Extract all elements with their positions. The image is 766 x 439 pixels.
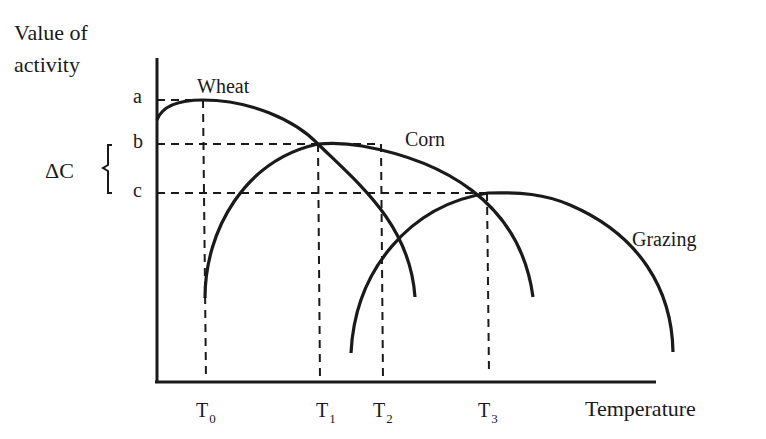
activity-temperature-diagram	[0, 0, 766, 439]
y-tick-a: a	[133, 86, 142, 106]
x-tick-t3: T3	[478, 400, 498, 420]
x-axis-title: Temperature	[585, 398, 696, 420]
delta-c-label: ΔC	[45, 160, 74, 182]
x-tick-t0: T0	[196, 400, 216, 420]
guide-t0	[203, 100, 206, 380]
corn-curve	[205, 143, 533, 298]
corn-label: Corn	[405, 129, 445, 149]
wheat-label: Wheat	[197, 76, 249, 96]
x-tick-t2: T2	[373, 400, 393, 420]
guide-t1	[318, 144, 320, 380]
y-tick-c: c	[133, 180, 142, 200]
y-axis-title-line1: Value of	[14, 22, 88, 44]
x-tick-t1: T1	[316, 400, 336, 420]
y-tick-b: b	[133, 131, 143, 151]
y-axis-title-line2: activity	[14, 54, 80, 76]
grazing-label: Grazing	[632, 229, 696, 249]
guide-t3	[487, 193, 489, 374]
grazing-curve	[351, 193, 673, 353]
